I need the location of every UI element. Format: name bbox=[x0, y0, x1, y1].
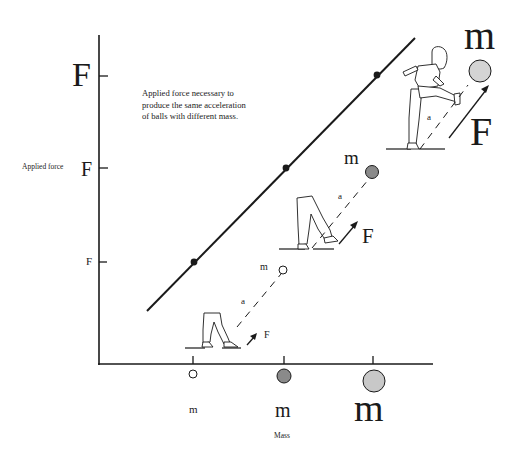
data-point-large bbox=[374, 72, 381, 79]
data-point-medium bbox=[283, 165, 290, 172]
ball-medium-icon bbox=[366, 166, 379, 179]
kicker-legs-icon bbox=[203, 313, 230, 344]
caption-line-3: of balls with different mass. bbox=[142, 111, 292, 123]
scene1-force-label: F bbox=[264, 330, 270, 340]
y-tick-label-medium: F bbox=[81, 159, 92, 179]
ball-medium-axis-icon bbox=[277, 369, 291, 383]
scene-small-kick bbox=[185, 266, 287, 348]
x-tick-label-large: m bbox=[354, 389, 384, 427]
x-tick-label-medium: m bbox=[275, 400, 291, 420]
force-arrow-small-icon bbox=[250, 333, 257, 340]
chart-caption: Applied force necessary to produce the s… bbox=[142, 88, 292, 123]
scene1-accel-label: a bbox=[241, 297, 245, 306]
ball-large-icon bbox=[469, 60, 491, 82]
scene3-mass-label: m bbox=[464, 16, 495, 56]
y-axis-label: Applied force bbox=[22, 163, 63, 171]
y-tick-label-small: F bbox=[86, 256, 92, 267]
scene2-accel-label: a bbox=[338, 192, 342, 201]
ball-small-icon bbox=[279, 266, 287, 274]
caption-line-2: produce the same acceleration bbox=[142, 100, 292, 112]
caption-line-1: Applied force necessary to bbox=[142, 88, 292, 100]
force-arrow-medium-icon bbox=[350, 221, 358, 229]
x-tick-label-small: m bbox=[189, 404, 198, 415]
scene3-force-label: F bbox=[470, 112, 492, 152]
force-arrow-large-icon bbox=[481, 85, 489, 93]
scene3-accel-label: a bbox=[427, 113, 431, 122]
data-point-small bbox=[191, 259, 198, 266]
scene2-force-label: F bbox=[362, 226, 374, 247]
scene2-mass-label: m bbox=[344, 148, 359, 167]
y-tick-label-large: F bbox=[72, 58, 91, 92]
x-axis-label: Mass bbox=[274, 432, 290, 440]
scene1-mass-label: m bbox=[260, 262, 268, 272]
ball-small-axis-icon bbox=[189, 370, 197, 378]
